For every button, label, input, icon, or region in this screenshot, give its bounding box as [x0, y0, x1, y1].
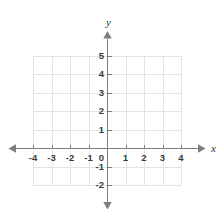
y-axis-tick-label: 4 [99, 68, 105, 79]
y-axis-tick-label: 1 [99, 124, 105, 135]
y-axis-tick-label: 5 [99, 50, 105, 61]
x-axis-tick-label: 1 [123, 152, 129, 163]
y-axis-tick-label: 2 [99, 105, 104, 116]
x-axis-tick-label: -4 [29, 152, 38, 163]
y-axis-tick-label: -1 [96, 161, 105, 172]
x-axis-tick-label: -2 [66, 152, 74, 163]
y-axis-tick-label: -2 [96, 179, 104, 190]
x-axis-tick-label: -1 [84, 152, 93, 163]
x-axis-name-label: x [210, 142, 216, 154]
x-axis-tick-label: 4 [178, 152, 184, 163]
y-axis-tick-label: 3 [99, 87, 104, 98]
canvas-background [0, 0, 219, 209]
origin-label: 0 [99, 152, 104, 163]
coordinate-grid-svg: -4-3-2-11234 -2-112345 0 x y [0, 0, 219, 209]
coordinate-plane: -4-3-2-11234 -2-112345 0 x y [0, 0, 219, 209]
x-axis-tick-label: 2 [141, 152, 146, 163]
x-axis-tick-label: 3 [160, 152, 165, 163]
x-axis-tick-label: -3 [47, 152, 55, 163]
y-axis-name-label: y [105, 16, 111, 28]
